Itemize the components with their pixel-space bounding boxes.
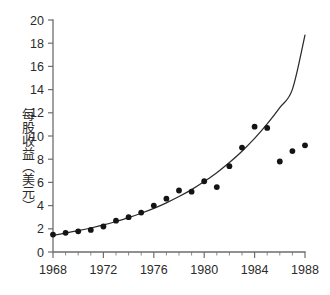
data-point — [63, 230, 69, 236]
data-point — [302, 142, 308, 148]
data-point — [75, 228, 81, 234]
fitted-exponential-curve — [53, 35, 305, 235]
x-tick-label: 1980 — [190, 263, 218, 277]
axis-lines — [53, 20, 305, 252]
data-point — [101, 224, 107, 230]
y-axis-ticks: 02468101214161820 — [30, 14, 53, 260]
y-tick-label: 10 — [30, 130, 44, 144]
y-tick-label: 6 — [37, 176, 44, 190]
y-tick-label: 18 — [30, 37, 44, 51]
data-point — [164, 196, 170, 202]
y-tick-label: 16 — [30, 60, 44, 74]
data-point — [227, 163, 233, 169]
data-point — [290, 148, 296, 154]
y-tick-label: 20 — [30, 14, 44, 28]
data-point — [151, 203, 157, 209]
data-point — [277, 159, 283, 165]
y-tick-label: 12 — [30, 106, 44, 120]
data-point — [252, 124, 258, 130]
y-tick-label: 14 — [30, 83, 44, 97]
y-tick-label: 0 — [37, 246, 44, 260]
y-tick-label: 4 — [37, 199, 44, 213]
chart-container: 每股收益（美元） 02468101214161820 1968197219761… — [0, 0, 330, 295]
data-point — [138, 210, 144, 216]
data-point — [264, 125, 270, 131]
data-points — [50, 124, 308, 238]
data-point — [113, 218, 119, 224]
x-tick-label: 1988 — [291, 263, 319, 277]
x-tick-label: 1968 — [39, 263, 67, 277]
data-point — [214, 184, 220, 190]
data-point — [176, 188, 182, 194]
x-axis-ticks: 196819721976198019841988 — [39, 252, 319, 277]
x-tick-label: 1976 — [140, 263, 168, 277]
x-tick-label: 1984 — [241, 263, 269, 277]
data-point — [50, 232, 56, 238]
chart-plot-area: 02468101214161820 1968197219761980198419… — [0, 0, 330, 295]
data-point — [239, 145, 245, 151]
data-point — [201, 178, 207, 184]
data-point — [189, 189, 195, 195]
y-tick-label: 2 — [37, 222, 44, 236]
y-tick-label: 8 — [37, 153, 44, 167]
x-tick-label: 1972 — [89, 263, 117, 277]
data-point — [88, 227, 94, 233]
data-point — [126, 214, 132, 220]
